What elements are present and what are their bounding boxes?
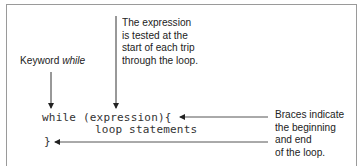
- arrows-layer: [0, 0, 364, 166]
